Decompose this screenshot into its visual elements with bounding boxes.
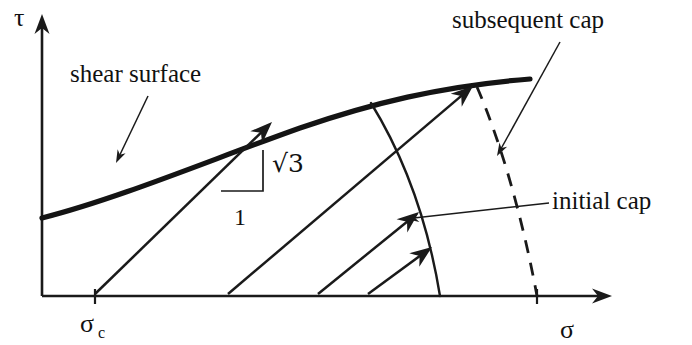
slope-horizontal-label: 1 bbox=[234, 204, 246, 230]
initial-cap-label-leader bbox=[414, 203, 549, 218]
yield-surface-diagram: σc √3 1 shear surfacesubsequent capiniti… bbox=[0, 0, 692, 345]
shear-surface-label-leader bbox=[119, 96, 148, 156]
figure-canvas: σc √3 1 shear surfacesubsequent capiniti… bbox=[0, 0, 692, 345]
axes-group bbox=[35, 14, 613, 304]
shear-surface-label: shear surface bbox=[70, 60, 201, 87]
annotations-group: shear surfacesubsequent capinitial cap bbox=[70, 6, 651, 222]
initial-cap-label: initial cap bbox=[552, 187, 651, 214]
plastic-strain-vector-3 bbox=[318, 220, 409, 294]
mean-stress-axis-label: σ bbox=[560, 315, 574, 344]
slope-vertical-label: √3 bbox=[272, 149, 304, 178]
plastic-strain-vectors-group bbox=[95, 86, 473, 294]
plastic-strain-vector-4 bbox=[368, 255, 422, 294]
subsequent-cap-curve bbox=[477, 87, 537, 296]
plastic-strain-vector-4-arrowhead bbox=[409, 247, 432, 267]
sigma-c-tick-label: σ bbox=[80, 309, 94, 338]
sigma-c-tick-subscript: c bbox=[98, 324, 105, 341]
plastic-strain-vector-2 bbox=[228, 94, 463, 294]
subsequent-cap-label: subsequent cap bbox=[452, 6, 604, 33]
subsequent-cap-label-leader bbox=[501, 42, 560, 149]
shear-stress-axis-label: τ bbox=[14, 3, 24, 32]
curves-group bbox=[42, 79, 537, 296]
